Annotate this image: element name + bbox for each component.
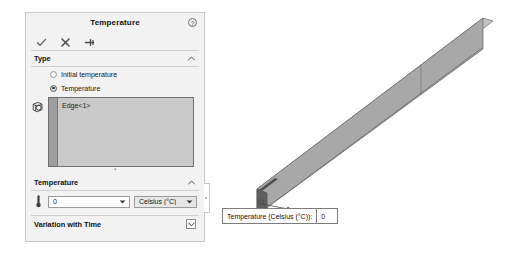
pin-icon[interactable] [84,37,95,48]
property-manager-panel: Temperature ? Type [25,12,205,242]
radio-initial-temperature[interactable] [50,71,57,78]
help-circle-icon[interactable]: ? [188,18,197,27]
panel-edge-tab[interactable] [204,183,210,213]
chevron-up-icon-type[interactable] [187,54,196,63]
temperature-units-select[interactable]: Celsius (°C) [134,196,197,208]
selected-edge-highlight[interactable] [258,48,482,214]
temperature-units-text: Celsius (°C) [135,198,176,205]
faces-edges-icon [31,101,44,114]
radio-row-initial-temperature[interactable]: Initial temperature [26,67,204,81]
selection-list-box[interactable]: Edge<1> [48,97,194,167]
section-header-type[interactable]: Type [26,51,204,66]
temperature-value-text: 0 [49,198,57,205]
resize-grip-icon[interactable]: ▪ [111,167,120,171]
chevron-down-icon-temperature-value[interactable] [119,199,126,204]
callout-label: Temperature (Celsius (°C)): [223,209,316,223]
section-label-type: Type [34,54,51,63]
radio-label-initial-temperature: Initial temperature [61,71,117,78]
selection-item-edge[interactable]: Edge<1> [62,102,90,109]
chevron-down-icon-temperature-units[interactable] [186,199,193,204]
chevron-down-icon-variation[interactable] [186,219,196,229]
temperature-value-input[interactable]: 0 [48,196,130,208]
section-label-variation: Variation with Time [34,220,101,229]
ok-check-icon[interactable] [36,37,47,48]
temperature-callout[interactable]: Temperature (Celsius (°C)): 0 [222,208,338,224]
selection-area: Edge<1> ▪ [26,97,204,167]
beam-front-face [257,18,483,215]
page-title: Temperature [26,18,204,27]
callout-value[interactable]: 0 [316,209,337,223]
section-label-temperature: Temperature [34,178,78,187]
radio-row-temperature[interactable]: Temperature [26,81,204,95]
thermometer-icon [33,195,44,208]
section-header-variation[interactable]: Variation with Time [26,216,204,232]
cancel-close-icon[interactable] [60,37,71,48]
panel-toolbar [26,34,204,51]
panel-header: Temperature ? [26,13,204,34]
section-header-temperature[interactable]: Temperature [26,175,204,190]
selection-gutter [49,98,58,166]
chevron-up-icon-temperature[interactable] [187,178,196,187]
radio-temperature[interactable] [50,85,57,92]
temperature-value-row: 0 Celsius (°C) [26,191,204,212]
radio-label-temperature: Temperature [61,85,100,92]
